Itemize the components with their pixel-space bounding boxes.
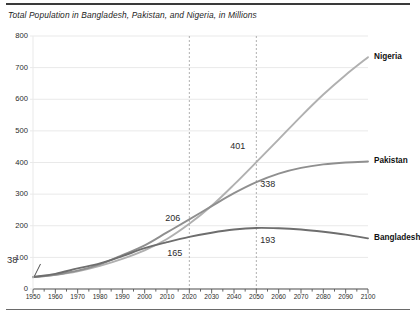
- document-rule-top: [6, 3, 410, 5]
- y-axis-tick-label: 600: [2, 95, 28, 103]
- value-annotation-193: 193: [260, 236, 275, 245]
- value-annotation-338: 338: [260, 180, 275, 189]
- value-annotation-206: 206: [165, 214, 180, 223]
- y-axis-tick-label: 300: [2, 190, 28, 198]
- x-axis-tick-label: 2100: [354, 294, 382, 301]
- value-annotation-38: 38: [7, 255, 17, 264]
- series-label-nigeria: Nigeria: [374, 53, 402, 61]
- value-annotation-401: 401: [230, 142, 245, 151]
- y-axis-tick-label: 400: [2, 159, 28, 167]
- chart-plot-area: [33, 36, 368, 289]
- annotation-leader-line: [35, 264, 41, 276]
- line-chart-svg: [33, 36, 368, 289]
- page-title: Total Population in Bangladesh, Pakistan…: [8, 10, 257, 20]
- y-axis-tick-label: 200: [2, 222, 28, 230]
- y-axis-tick-label: 500: [2, 127, 28, 135]
- document-rule-bottom: [6, 309, 410, 310]
- series-label-pakistan: Pakistan: [374, 157, 408, 165]
- gridlines: [33, 36, 368, 289]
- value-annotation-165: 165: [167, 249, 182, 258]
- y-axis-tick-label: 0: [2, 285, 28, 293]
- series-label-bangladesh: Bangladesh: [374, 234, 420, 242]
- y-axis-tick-label: 800: [2, 32, 28, 40]
- y-axis-tick-label: 700: [2, 64, 28, 72]
- series-lines: [33, 57, 368, 277]
